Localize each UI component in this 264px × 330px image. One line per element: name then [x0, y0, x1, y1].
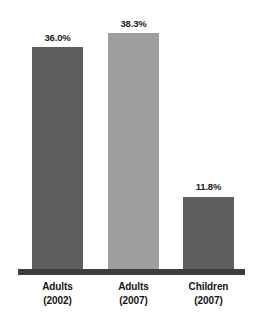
bar-rect[interactable] — [183, 197, 234, 270]
category-year: (2007) — [183, 294, 234, 308]
category-label-children-2007: Children (2007) — [183, 280, 234, 307]
category-label-adults-2007: Adults (2007) — [108, 280, 159, 307]
category-name: Children — [183, 280, 234, 294]
bar-rect[interactable] — [108, 33, 159, 270]
bar-group-children-2007[interactable]: 11.8% — [183, 182, 234, 270]
category-year: (2002) — [32, 294, 83, 308]
category-label-adults-2002: Adults (2002) — [32, 280, 83, 307]
bar-value-label: 11.8% — [196, 182, 221, 192]
category-axis: Adults (2002) Adults (2007) Children (20… — [0, 280, 264, 330]
bar-value-label: 38.3% — [121, 19, 147, 29]
category-name: Adults — [32, 280, 83, 294]
category-year: (2007) — [108, 294, 159, 308]
plot-area: 36.0% 38.3% 11.8% — [0, 0, 264, 270]
bar-value-label: 36.0% — [45, 33, 71, 43]
axis-baseline — [18, 269, 245, 275]
bar-group-adults-2002[interactable]: 36.0% — [32, 33, 83, 270]
bar-group-adults-2007[interactable]: 38.3% — [108, 19, 159, 271]
bar-chart: 36.0% 38.3% 11.8% Adults (2002) Adults (… — [0, 0, 264, 330]
bar-rect[interactable] — [32, 47, 83, 270]
category-name: Adults — [108, 280, 159, 294]
